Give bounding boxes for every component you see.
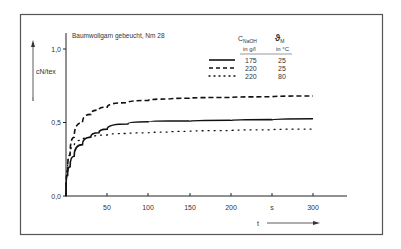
legend: CNaOH in g/l ϑM in °C 175 25 220 25 220 … bbox=[209, 33, 292, 80]
legend-temp-value: 25 bbox=[278, 65, 286, 72]
legend-c-value: 220 bbox=[245, 65, 257, 72]
x-tick-label: 150 bbox=[184, 204, 196, 211]
chart: Baumwollgarn gebeucht, Nm 28 cN/tex 1,0 … bbox=[0, 0, 401, 249]
series-solid-line bbox=[66, 119, 313, 196]
y-direction-arrow-icon bbox=[31, 40, 35, 101]
legend-c-value: 220 bbox=[245, 73, 257, 80]
x-tick-label: 50 bbox=[103, 204, 111, 211]
legend-header-c: CNaOH bbox=[238, 35, 257, 44]
series-layer bbox=[66, 96, 313, 196]
legend-header-theta: ϑM bbox=[275, 33, 284, 44]
legend-temp-value: 80 bbox=[278, 73, 286, 80]
y-tick-label: 0,5 bbox=[51, 119, 61, 126]
x-tick-label: s bbox=[270, 204, 274, 211]
x-tick-label: 300 bbox=[307, 204, 319, 211]
series-dotted-line bbox=[66, 129, 313, 196]
y-tick-label: 1,0 bbox=[51, 46, 61, 53]
x-axis-label: t bbox=[257, 220, 259, 227]
x-tick-label: 200 bbox=[225, 204, 237, 211]
x-direction-arrow-icon bbox=[267, 221, 320, 225]
x-tick-label: 100 bbox=[142, 204, 154, 211]
legend-header-theta-unit: in °C bbox=[276, 46, 290, 52]
y-tick-label: 0,0 bbox=[51, 193, 61, 200]
y-axis-label: cN/tex bbox=[36, 68, 56, 75]
chart-title: Baumwollgarn gebeucht, Nm 28 bbox=[72, 32, 165, 40]
series-dashed-line bbox=[66, 96, 313, 196]
chart-frame bbox=[21, 15, 383, 235]
legend-header-c-unit: in g/l bbox=[243, 46, 256, 52]
legend-c-value: 175 bbox=[245, 57, 257, 64]
legend-temp-value: 25 bbox=[278, 57, 286, 64]
